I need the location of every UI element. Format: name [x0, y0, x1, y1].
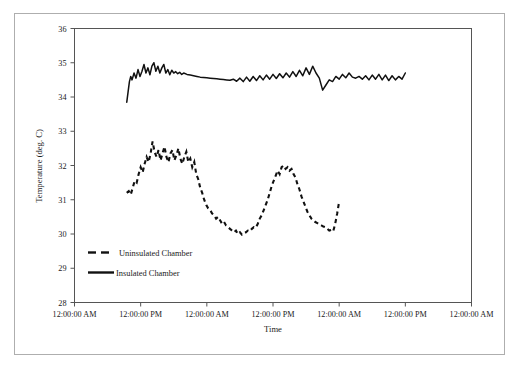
y-axis-title: Temperature (deg. C): [34, 129, 44, 203]
y-tick-label: 31: [58, 196, 66, 205]
x-axis: 12:00:00 AM12:00:00 PM12:00:00 AM12:00:0…: [53, 303, 495, 319]
x-axis-title: Time: [264, 324, 282, 334]
y-tick-label: 29: [58, 264, 66, 273]
x-tick-label: 12:00:00 AM: [53, 310, 98, 319]
temperature-line-chart: 282930313233343536 12:00:00 AM12:00:00 P…: [0, 0, 520, 371]
x-tick-label: 12:00:00 AM: [317, 310, 362, 319]
y-tick-label: 32: [58, 162, 66, 171]
y-tick-label: 33: [58, 127, 66, 136]
y-tick-label: 30: [58, 230, 66, 239]
y-tick-label: 34: [58, 93, 66, 102]
x-tick-label: 12:00:00 PM: [252, 310, 296, 319]
y-tick-label: 35: [58, 59, 66, 68]
y-axis: 282930313233343536: [58, 25, 74, 308]
x-tick-label: 12:00:00 AM: [185, 310, 230, 319]
series-group: [127, 63, 406, 235]
figure-root: 282930313233343536 12:00:00 AM12:00:00 P…: [0, 0, 520, 371]
x-tick-label: 12:00:00 PM: [384, 310, 428, 319]
chart-legend: Uninsulated Chamber Insulated Chamber: [88, 249, 192, 278]
y-tick-label: 36: [58, 25, 66, 34]
legend-label-insulated-chamber: Insulated Chamber: [116, 269, 180, 278]
series-line-uninsulated-chamber: [127, 142, 339, 235]
series-line-insulated-chamber: [127, 63, 406, 102]
y-tick-label: 28: [58, 299, 66, 308]
legend-label-uninsulated-chamber: Uninsulated Chamber: [119, 249, 192, 258]
x-tick-label: 12:00:00 PM: [119, 310, 163, 319]
x-tick-label: 12:00:00 AM: [450, 310, 495, 319]
plot-area-border: [75, 29, 472, 303]
